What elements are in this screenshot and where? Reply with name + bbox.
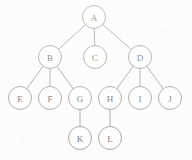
- edge-a-d: [103, 25, 132, 50]
- node-j: J: [159, 87, 182, 110]
- node-i: I: [129, 87, 152, 110]
- tree-diagram-canvas: ABCDEFGHIJKL: [0, 0, 192, 160]
- edge-d-j: [147, 66, 163, 88]
- edge-a-b: [59, 25, 86, 50]
- node-label-c: C: [92, 53, 98, 63]
- edge-b-e: [27, 66, 43, 88]
- node-l: L: [99, 127, 122, 150]
- node-label-d: D: [137, 53, 144, 63]
- node-d: D: [129, 46, 152, 69]
- node-label-j: J: [168, 94, 172, 104]
- edges-layer: [27, 25, 163, 127]
- node-k: K: [69, 127, 92, 150]
- node-label-f: F: [47, 94, 52, 104]
- node-label-g: G: [77, 94, 84, 104]
- edge-b-g: [57, 66, 73, 88]
- node-a: A: [83, 6, 106, 29]
- edge-d-h: [117, 66, 133, 88]
- node-label-l: L: [107, 134, 113, 144]
- node-e: E: [9, 87, 32, 110]
- node-h: H: [99, 87, 122, 110]
- node-label-e: E: [17, 94, 23, 104]
- node-label-k: K: [77, 134, 84, 144]
- node-label-i: I: [139, 94, 142, 104]
- node-f: F: [39, 87, 62, 110]
- node-label-b: B: [47, 53, 53, 63]
- node-b: B: [39, 46, 62, 69]
- tree-diagram: ABCDEFGHIJKL: [0, 0, 192, 160]
- node-label-h: H: [107, 94, 114, 104]
- node-g: G: [69, 87, 92, 110]
- node-c: C: [84, 46, 107, 69]
- node-label-a: A: [91, 13, 98, 23]
